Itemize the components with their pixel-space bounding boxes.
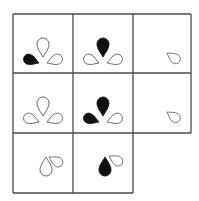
drop-top-outline-icon <box>37 97 49 116</box>
drop-right-outline-icon <box>105 112 124 127</box>
drop-single-outline-icon <box>164 108 182 125</box>
cell-r1-c1 <box>22 38 64 68</box>
drop-up-filled-icon <box>99 157 111 176</box>
drop-top-filled-icon <box>97 97 109 116</box>
drop-left-filled-icon <box>22 53 41 68</box>
drop-right-outline-icon <box>45 53 64 68</box>
cell-r3-c2 <box>99 152 125 176</box>
cell-r1-c3 <box>164 49 182 66</box>
drop-side-outline-icon <box>47 153 65 169</box>
drop-single-outline-icon <box>164 49 182 66</box>
matrix-puzzle <box>0 0 199 201</box>
drop-top-outline-icon <box>37 38 49 57</box>
drop-left-outline-icon <box>82 53 101 68</box>
drop-right-outline-icon <box>45 112 64 127</box>
cell-r2-c2 <box>82 97 124 127</box>
drop-left-filled-icon <box>82 112 101 127</box>
drop-left-outline-icon <box>22 112 41 127</box>
cell-r3-c1 <box>40 153 65 176</box>
cell-r2-c1 <box>22 97 64 127</box>
cell-r2-c3 <box>164 108 182 125</box>
cell-r1-c2 <box>82 38 124 68</box>
drop-right-outline-icon <box>105 53 124 68</box>
drop-top-filled-icon <box>97 38 109 57</box>
